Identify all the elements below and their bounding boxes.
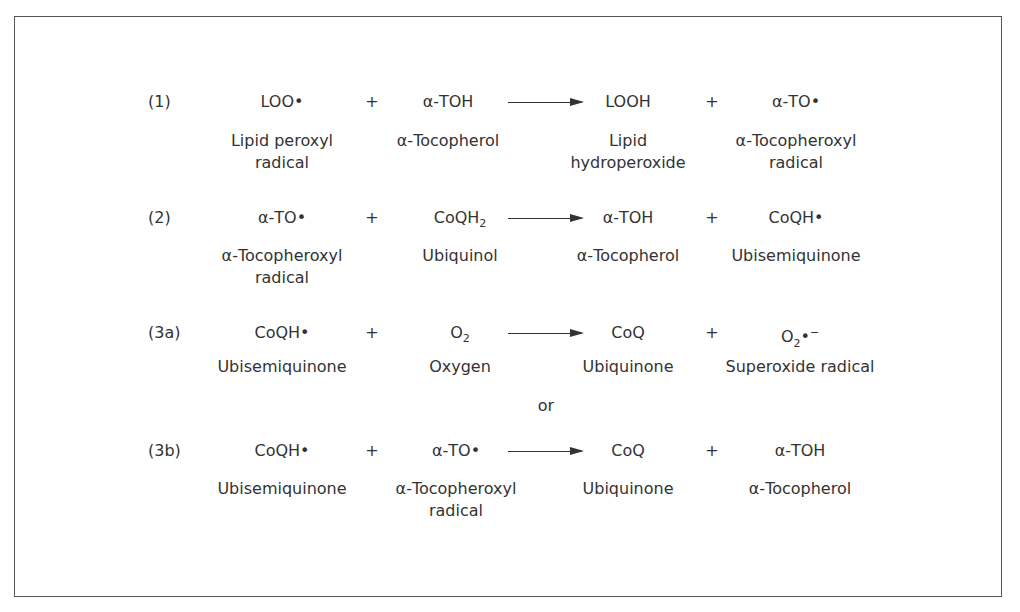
product-2-formula: CoQH• xyxy=(768,208,823,228)
product-1-name: α-Tocopherol xyxy=(577,245,679,267)
reactant-2-name: Ubiquinol xyxy=(422,245,497,267)
reaction-arrow xyxy=(508,218,582,219)
reactant-1-formula: LOO• xyxy=(261,92,304,112)
reactant-2-name: Oxygen xyxy=(429,356,491,378)
reaction-arrow xyxy=(508,333,582,334)
or-separator: or xyxy=(538,396,554,416)
reactant-1-formula: CoQH• xyxy=(254,441,309,461)
reactant-2-formula: CoQH2 xyxy=(434,208,487,234)
product-1-name: Ubiquinone xyxy=(583,356,674,378)
plus-sign: + xyxy=(705,441,718,461)
product-1-name: Lipid hydroperoxide xyxy=(570,130,685,174)
product-2-formula: α-TOH xyxy=(775,441,826,461)
product-2-name: Superoxide radical xyxy=(726,356,875,378)
reaction-label: (2) xyxy=(148,208,171,228)
plus-sign: + xyxy=(705,323,718,343)
product-1-formula: CoQ xyxy=(611,441,645,461)
product-2-name: α-Tocopheroxyl radical xyxy=(736,130,857,174)
plus-sign: + xyxy=(365,323,378,343)
reaction-arrow xyxy=(508,451,582,452)
reactant-2-formula: α-TOH xyxy=(423,92,474,112)
reactant-1-formula: α-TO• xyxy=(258,208,306,228)
product-2-formula: O2•− xyxy=(781,323,819,354)
reactant-2-name: α-Tocopheroxyl radical xyxy=(396,478,517,522)
reactant-2-name: α-Tocopherol xyxy=(397,130,499,152)
plus-sign: + xyxy=(705,92,718,112)
reactant-1-name: α-Tocopheroxyl radical xyxy=(222,245,343,289)
product-1-formula: α-TOH xyxy=(603,208,654,228)
plus-sign: + xyxy=(365,92,378,112)
reactant-2-formula: α-TO• xyxy=(432,441,480,461)
reactant-1-formula: CoQH• xyxy=(254,323,309,343)
reactant-2-formula: O2 xyxy=(450,323,470,349)
reactant-1-name: Ubisemiquinone xyxy=(217,478,346,500)
reaction-label: (1) xyxy=(148,92,171,112)
product-2-name: Ubisemiquinone xyxy=(731,245,860,267)
reaction-label: (3a) xyxy=(148,323,180,343)
product-1-formula: CoQ xyxy=(611,323,645,343)
reaction-label: (3b) xyxy=(148,441,181,461)
reactant-1-name: Lipid peroxyl radical xyxy=(231,130,333,174)
reactant-1-name: Ubisemiquinone xyxy=(217,356,346,378)
product-2-name: α-Tocopherol xyxy=(749,478,851,500)
plus-sign: + xyxy=(705,208,718,228)
product-2-formula: α-TO• xyxy=(772,92,820,112)
plus-sign: + xyxy=(365,441,378,461)
plus-sign: + xyxy=(365,208,378,228)
product-1-name: Ubiquinone xyxy=(583,478,674,500)
product-1-formula: LOOH xyxy=(605,92,651,112)
reaction-arrow xyxy=(508,102,582,103)
